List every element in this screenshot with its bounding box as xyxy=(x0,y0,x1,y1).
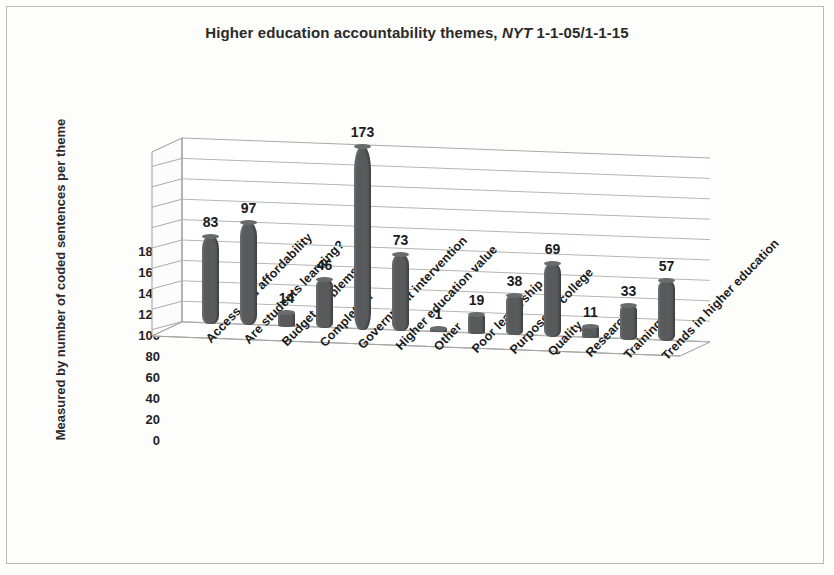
chart-title-main: Higher education accountability themes, xyxy=(205,24,502,41)
plot-3d-frame xyxy=(150,120,730,370)
chart-title-range: 1-1-05/1-1-15 xyxy=(532,24,628,41)
y-tick-label: 20 xyxy=(100,413,160,426)
y-tick-label: 0 xyxy=(100,434,160,447)
chart-title: Higher education accountability themes, … xyxy=(0,24,834,41)
plot-area xyxy=(150,120,730,360)
y-axis-title: Measured by number of coded sentences pe… xyxy=(53,70,68,490)
y-tick-label: 60 xyxy=(100,371,160,384)
chart-title-source: NYT xyxy=(502,24,532,41)
y-tick-label: 40 xyxy=(100,392,160,405)
bar-chart: Higher education accountability themes, … xyxy=(0,0,834,575)
